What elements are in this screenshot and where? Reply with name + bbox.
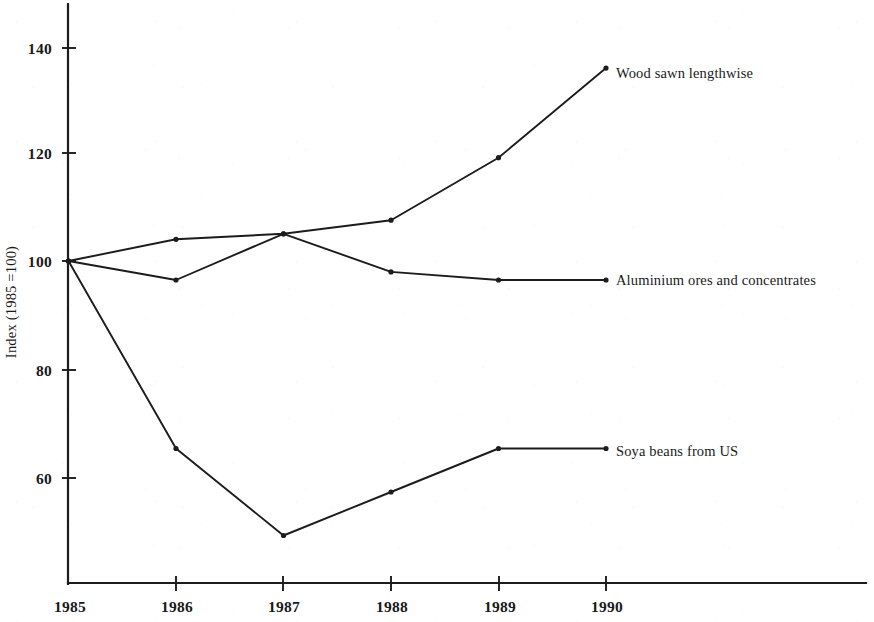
data-point: [66, 258, 71, 263]
series-wood-sawn-lengthwise: [66, 66, 609, 264]
data-point: [496, 155, 501, 160]
x-tick-label-1985: 1985: [54, 598, 86, 615]
y-tick-label-80: 80: [36, 362, 52, 379]
series-line-aluminium: [69, 234, 607, 280]
series-markers-wood: [66, 66, 609, 264]
x-tick-label-1989: 1989: [484, 598, 516, 615]
data-point: [173, 237, 178, 242]
x-tick-label-1990: 1990: [591, 598, 623, 615]
axes-group: [68, 4, 866, 584]
data-point: [388, 218, 393, 223]
data-point: [603, 446, 608, 451]
data-point: [173, 277, 178, 282]
data-point: [496, 446, 501, 451]
data-point: [281, 533, 286, 538]
y-tick-label-120: 120: [28, 145, 52, 162]
x-tick-labels-group: 1985 1986 1987 1988 1989 1990: [54, 598, 623, 615]
y-axis-title: Index (1985 =100): [3, 246, 20, 358]
series-label-aluminium: Aluminium ores and concentrates: [616, 272, 816, 288]
data-point: [496, 277, 501, 282]
series-label-wood: Wood sawn lengthwise: [616, 65, 753, 81]
series-line-soya: [69, 261, 607, 536]
x-tick-label-1987: 1987: [268, 598, 300, 615]
series-line-wood: [69, 68, 607, 261]
data-point: [603, 66, 608, 71]
data-point: [388, 489, 393, 494]
series-soya-beans-from-us: [66, 258, 609, 538]
chart-canvas: 140 120 100 80 60 Index (1985 =100) 1985…: [0, 0, 874, 622]
series-label-soya: Soya beans from US: [616, 443, 738, 459]
series-labels-group: Wood sawn lengthwise Aluminium ores and …: [616, 65, 816, 459]
data-point: [388, 269, 393, 274]
y-tick-label-60: 60: [36, 470, 52, 487]
y-tick-labels-group: 140 120 100 80 60: [28, 40, 52, 487]
series-aluminium-ores-and-concentrates: [66, 231, 609, 282]
y-tick-label-100: 100: [28, 253, 52, 270]
data-point: [173, 446, 178, 451]
line-chart-figure: 140 120 100 80 60 Index (1985 =100) 1985…: [0, 0, 874, 622]
data-point: [281, 231, 286, 236]
y-tick-label-140: 140: [28, 40, 52, 57]
series-group: [66, 66, 609, 539]
x-tick-label-1988: 1988: [376, 598, 408, 615]
data-point: [603, 277, 608, 282]
x-tick-label-1986: 1986: [161, 598, 193, 615]
